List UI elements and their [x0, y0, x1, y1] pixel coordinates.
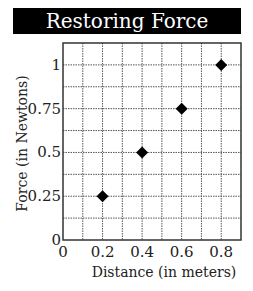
x-axis-label: Distance (in meters) [92, 264, 237, 280]
y-tick-label: 0.5 [37, 143, 61, 161]
grid [63, 43, 241, 240]
data-point-diamond [97, 190, 109, 202]
data-point-diamond [215, 59, 227, 71]
y-tick-label: 1 [51, 56, 61, 74]
data-point-diamond [136, 146, 148, 158]
data-point-diamond [176, 103, 188, 115]
y-axis-label: Force (in Newtons) [14, 75, 30, 211]
x-axis-ticks: 00.20.40.60.8 [58, 243, 233, 261]
x-tick-label: 0.2 [91, 243, 115, 261]
y-tick-label: 0.75 [28, 100, 61, 118]
x-tick-label: 0.8 [209, 243, 233, 261]
y-tick-label: 0.25 [28, 187, 61, 205]
y-axis-ticks: 00.250.50.751 [28, 56, 61, 249]
y-tick-label: 0 [51, 231, 61, 249]
plot-frame [63, 43, 241, 240]
x-tick-label: 0.6 [170, 243, 194, 261]
scatter-chart: 00.20.40.60.8 00.250.50.751 Distance (in… [0, 0, 253, 291]
x-tick-label: 0.4 [130, 243, 154, 261]
